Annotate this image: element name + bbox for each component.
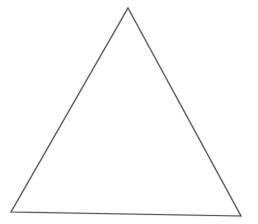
- triangle-figure-svg: [0, 0, 258, 224]
- canvas-background: [0, 0, 258, 224]
- figure-canvas: [0, 0, 258, 224]
